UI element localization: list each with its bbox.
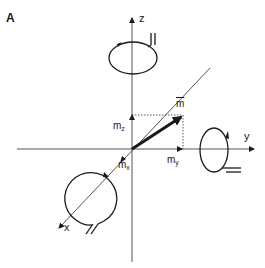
z-axis-label: z bbox=[139, 13, 145, 24]
mz-arrowhead-icon bbox=[129, 114, 135, 120]
x-coil-current-arrow-icon bbox=[103, 172, 109, 177]
my-arrowhead-icon bbox=[177, 146, 183, 152]
y-coil-current-arrow-icon bbox=[225, 131, 229, 139]
x-axis-label: x bbox=[64, 222, 70, 233]
moment-vector-label: m bbox=[176, 99, 184, 109]
y-coil bbox=[200, 128, 241, 172]
moment-vector bbox=[132, 117, 181, 149]
mx-label: mx bbox=[118, 160, 130, 171]
mz-subscript: z bbox=[121, 125, 125, 132]
my-label: my bbox=[167, 155, 179, 166]
diagram-canvas bbox=[0, 0, 265, 268]
x-coil bbox=[65, 172, 117, 234]
panel-label: A bbox=[6, 12, 15, 24]
z-coil bbox=[109, 33, 157, 74]
mx-subscript: x bbox=[126, 164, 130, 171]
magnetic-moment-diagram: A z y x m mz my mx bbox=[0, 0, 265, 268]
y-axis-label: y bbox=[244, 131, 250, 142]
mz-label: mz bbox=[113, 121, 125, 132]
my-subscript: y bbox=[175, 159, 179, 166]
